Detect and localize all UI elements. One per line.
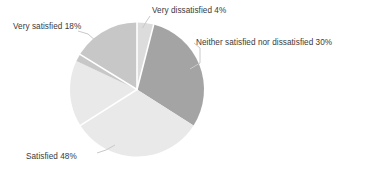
pie-label-very-satisfied: Very satisfied 18% [13,22,81,32]
pie-label-neither-satisfied-nor-dissatisfied: Neither satisfied nor dissatisfied 30% [196,38,332,48]
pie-label-very-dissatisfied: Very dissatisfied 4% [152,6,226,16]
pie-label-satisfied: Satisfied 48% [26,152,77,162]
pie-chart: Very dissatisfied 4% Neither satisfied n… [0,0,370,179]
